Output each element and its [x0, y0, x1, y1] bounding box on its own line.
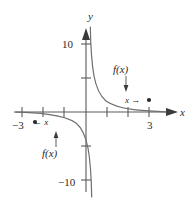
- direction-label-left: ← x: [33, 118, 48, 127]
- function-label-lower: f(x): [42, 148, 57, 159]
- x-tick-label-3: 3: [147, 120, 153, 131]
- x-axis-arrowhead: [166, 108, 178, 116]
- y-tick-label-10: 10: [62, 39, 73, 50]
- function-graph-figure: y x 10 −10 −3 3 f(x) f(x) x → ← x: [0, 0, 193, 201]
- function-label-upper: f(x): [113, 64, 128, 75]
- direction-label-right: x →: [125, 96, 140, 105]
- annotation-arrow-lower-head: [54, 131, 59, 138]
- y-tick-label-minus-10: −10: [58, 177, 75, 188]
- x-tick-label-minus-3: −3: [12, 120, 24, 131]
- annotation-arrow-upper-head: [124, 85, 129, 92]
- direction-marker-right-dot: [147, 98, 151, 102]
- y-axis-label: y: [88, 11, 93, 22]
- y-axis-arrowhead: [82, 28, 90, 40]
- graph-canvas: [0, 0, 193, 201]
- x-axis-label: x: [180, 107, 185, 118]
